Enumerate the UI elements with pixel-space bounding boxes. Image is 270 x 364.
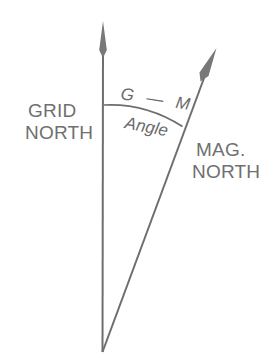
grid-north-arrowhead-icon xyxy=(99,21,107,58)
grid-north-label-line2: NORTH xyxy=(25,122,93,143)
mag-north-label-line2: NORTH xyxy=(192,161,260,182)
angle-label-line1: G — M xyxy=(119,84,195,114)
declination-diagram: GRID NORTH MAG. NORTH G — M Angle xyxy=(0,0,270,364)
angle-label-line2: Angle xyxy=(122,113,169,140)
mag-north-arrowhead-icon xyxy=(200,48,217,82)
diagram-canvas: GRID NORTH MAG. NORTH G — M Angle xyxy=(0,0,270,364)
grid-north-label-line1: GRID xyxy=(28,100,76,121)
mag-north-label-line1: MAG. xyxy=(196,139,245,160)
grid-north-line xyxy=(103,48,104,352)
